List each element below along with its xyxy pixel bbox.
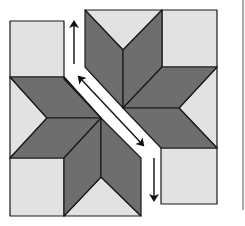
corner-square	[161, 148, 217, 204]
corner-square	[10, 21, 64, 77]
quilt-diagram	[0, 0, 245, 226]
corner-square	[10, 158, 64, 216]
corner-square	[162, 10, 217, 67]
